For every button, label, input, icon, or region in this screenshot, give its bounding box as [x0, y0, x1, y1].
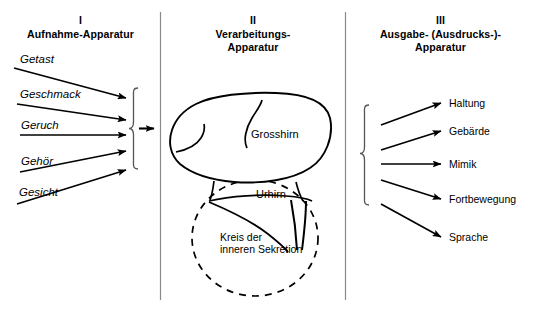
output-arrow-sprache — [381, 204, 441, 237]
output-label-mimik: Mimik — [449, 158, 476, 170]
cerebrum-label: Grosshirn — [251, 128, 299, 141]
input-label-gesicht: Gesicht — [19, 186, 58, 200]
column-title-2: II Verarbeitungs- Apparatur — [168, 14, 338, 53]
input-brace — [129, 88, 138, 169]
output-label-gebaerde: Gebärde — [449, 125, 490, 137]
secretion-label-line1: Kreis der — [220, 231, 302, 243]
input-label-geschmack: Geschmack — [20, 88, 81, 102]
brainstem-strand-outer — [302, 201, 306, 250]
input-label-geruch: Geruch — [21, 119, 59, 133]
column-title-1: I Aufnahme-Apparatur — [8, 14, 153, 41]
diagram-canvas: I Aufnahme-Apparatur II Verarbeitungs- A… — [0, 0, 533, 318]
column-name-2-line2: Apparatur — [168, 41, 338, 53]
input-arrow-geschmack — [17, 104, 126, 120]
output-arrow-haltung — [381, 103, 441, 125]
column-numeral-2: II — [168, 14, 338, 26]
output-arrow-fortbewegung — [381, 180, 441, 199]
column-name-1: Aufnahme-Apparatur — [8, 28, 153, 40]
column-numeral-3: III — [353, 14, 528, 26]
output-arrow-gebaerde — [381, 131, 441, 150]
column-name-2-line1: Verarbeitungs- — [168, 28, 338, 40]
input-label-gehoer: Gehör — [21, 155, 53, 169]
secretion-label-line2: inneren Sekretion — [220, 243, 302, 255]
column-numeral-1: I — [8, 14, 153, 26]
brainstem-label: Urhirn — [256, 188, 286, 201]
brainstem-left-edge — [210, 181, 214, 200]
output-label-fortbewegung: Fortbewegung — [449, 193, 516, 205]
column-title-3: III Ausgabe- (Ausdrucks-)- Apparatur — [353, 14, 528, 53]
output-label-sprache: Sprache — [449, 231, 488, 243]
input-label-getast: Getast — [20, 53, 54, 67]
column-name-3-line1: Ausgabe- (Ausdrucks-)- — [353, 28, 528, 40]
secretion-label: Kreis der inneren Sekretion — [220, 231, 302, 256]
output-brace — [360, 105, 369, 205]
output-label-haltung: Haltung — [449, 97, 485, 109]
column-name-3-line2: Apparatur — [353, 41, 528, 53]
